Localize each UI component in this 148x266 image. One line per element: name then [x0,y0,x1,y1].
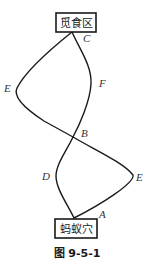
route-c-f-b-d-a [56,32,91,218]
point-label-a: A [98,208,106,220]
ant-nest-box: 蚂蚁穴 [55,219,97,238]
point-label-e-left: E [3,82,11,94]
point-label-f: F [98,77,106,89]
point-label-e-right: E [135,171,143,183]
point-label-d: D [41,170,50,182]
point-label-c: C [83,32,91,44]
ant-route-diagram: 觅食区 蚂蚁穴 C E F B D E A 图 9-5-1 [0,0,148,266]
route-c-e-b-e-a [16,32,133,218]
foraging-area-label: 觅食区 [60,16,93,30]
figure-caption: 图 9-5-1 [54,247,101,260]
foraging-area-box: 觅食区 [56,13,96,32]
ant-nest-label: 蚂蚁穴 [60,222,93,236]
point-label-b: B [81,127,88,139]
